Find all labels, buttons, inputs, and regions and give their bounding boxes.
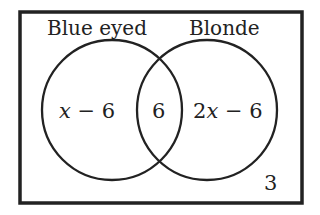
blonde-only-region: 2x − 6 [193, 99, 263, 123]
neither-region: 3 [264, 171, 277, 195]
blonde-label: Blonde [189, 16, 260, 40]
blue-eyed-label: Blue eyed [47, 16, 147, 40]
blue-only-region: x − 6 [59, 99, 115, 123]
intersection-region: 6 [152, 99, 165, 123]
venn-diagram: Blue eyed Blonde x − 6 6 2x − 6 3 [0, 0, 320, 215]
